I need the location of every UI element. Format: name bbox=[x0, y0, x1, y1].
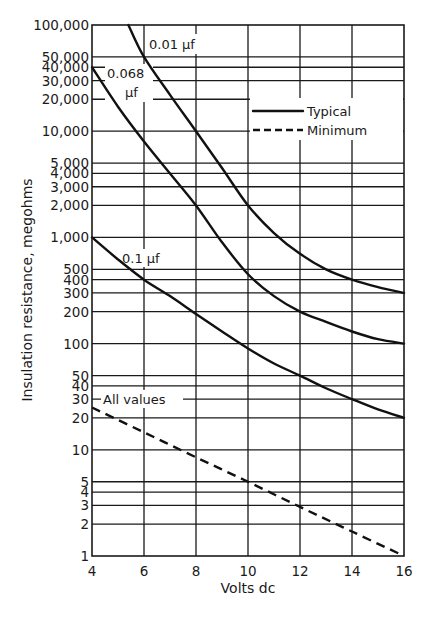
y-tick-label: 10,000 bbox=[42, 123, 89, 139]
x-tick-label: 12 bbox=[291, 563, 308, 579]
y-tick-label: 2,000 bbox=[50, 197, 89, 213]
y-tick-label: 20 bbox=[72, 410, 89, 426]
y-tick-label: 100 bbox=[63, 336, 89, 352]
x-axis-label: Volts dc bbox=[221, 580, 276, 596]
series-line-0-01-f bbox=[128, 25, 404, 293]
x-tick-label: 6 bbox=[140, 563, 149, 579]
curve-label-all-values: All values bbox=[103, 392, 166, 407]
legend-label-typical: Typical bbox=[306, 104, 351, 119]
curve-label-0-01uf: 0.01 µf bbox=[149, 37, 195, 52]
x-tick-label: 14 bbox=[343, 563, 360, 579]
x-tick-label: 4 bbox=[88, 563, 97, 579]
y-tick-label: 1 bbox=[80, 548, 89, 564]
y-tick-label: 20,000 bbox=[42, 91, 89, 107]
y-tick-label: 50 bbox=[72, 368, 89, 384]
x-tick-label: 16 bbox=[395, 563, 412, 579]
y-tick-label: 10 bbox=[72, 442, 89, 458]
y-tick-label: 50,000 bbox=[42, 49, 89, 65]
y-tick-label: 5,000 bbox=[50, 155, 89, 171]
y-tick-label: 2 bbox=[80, 516, 89, 532]
y-tick-label: 5 bbox=[80, 474, 89, 490]
curve-label-0-068uf-unit: µf bbox=[125, 85, 138, 100]
curve-label-0-068uf: 0.068 bbox=[107, 66, 144, 81]
insulation-resistance-chart: 1234510203040501002003004005001,0002,000… bbox=[0, 0, 426, 617]
legend-label-minimum: Minimum bbox=[307, 123, 367, 138]
x-tick-label: 10 bbox=[239, 563, 256, 579]
y-tick-label: 100,000 bbox=[33, 17, 89, 33]
y-axis-label: Insulation resistance, megohms bbox=[19, 178, 35, 401]
curve-label-0-1uf: 0.1 µf bbox=[122, 251, 160, 266]
y-tick-label: 200 bbox=[63, 304, 89, 320]
y-tick-label: 1,000 bbox=[50, 229, 89, 245]
x-tick-label: 8 bbox=[192, 563, 201, 579]
y-tick-label: 500 bbox=[63, 261, 89, 277]
